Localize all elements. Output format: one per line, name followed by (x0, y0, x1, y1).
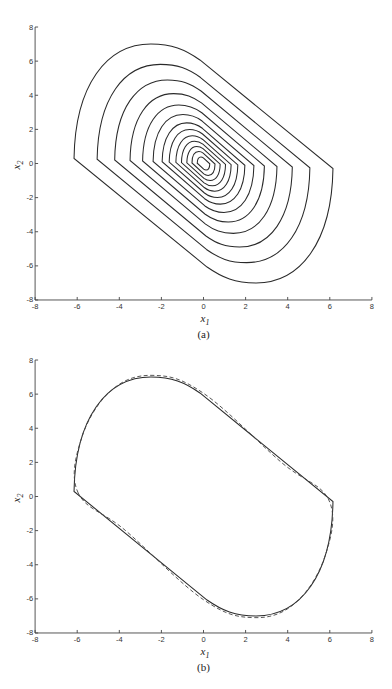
x-tick-label: -4 (116, 302, 123, 311)
panel-caption: (b) (197, 661, 210, 674)
y-tick-label: 2 (29, 125, 33, 134)
x-tick-label: -2 (158, 302, 165, 311)
y-tick-label: -4 (26, 227, 33, 236)
figure: -8-6-4-202468-8-6-4-202468x1x2(a) -8-6-4… (0, 0, 392, 689)
x-tick-label: 2 (244, 302, 248, 311)
y-tick-label: -2 (26, 526, 33, 535)
y-tick-label: -8 (26, 295, 33, 304)
y-tick-label: 0 (29, 159, 33, 168)
y-tick-label: 8 (29, 356, 33, 365)
dashed-curve (74, 375, 333, 617)
x-tick-label: -6 (74, 635, 81, 644)
solid-curve (74, 377, 333, 616)
x-tick-label: 0 (201, 302, 205, 311)
x-axis-label: x1 (200, 312, 210, 327)
x-tick-label: -6 (74, 302, 81, 311)
x-tick-label: 4 (286, 635, 290, 644)
y-tick-label: 4 (29, 424, 33, 433)
x-tick-label: 2 (244, 635, 248, 644)
x-axis-label: x1 (200, 645, 210, 660)
y-tick-label: -2 (26, 193, 33, 202)
x-tick-label: -4 (116, 635, 123, 644)
y-tick-label: -4 (26, 560, 33, 569)
y-tick-label: -6 (26, 594, 33, 603)
trajectory-loop (197, 157, 210, 170)
trajectory-loop (97, 64, 310, 262)
x-tick-label: 4 (286, 302, 290, 311)
y-tick-label: 6 (29, 57, 33, 66)
y-axis-label: x2 (10, 494, 25, 504)
y-tick-label: 0 (29, 492, 33, 501)
trajectory-loop (192, 152, 215, 176)
y-tick-label: 6 (29, 390, 33, 399)
y-tick-label: 2 (29, 458, 33, 467)
y-axis-label: x2 (10, 161, 25, 171)
panel-caption: (a) (197, 328, 210, 341)
y-tick-label: -8 (26, 628, 33, 637)
panel-a-phase-portrait: -8-6-4-202468-8-6-4-202468x1x2(a) (10, 23, 374, 341)
y-tick-label: 8 (29, 23, 33, 32)
x-tick-label: 8 (370, 302, 374, 311)
x-tick-label: 0 (201, 635, 205, 644)
x-tick-label: 6 (328, 302, 332, 311)
x-tick-label: -2 (158, 635, 165, 644)
panel-b-comparison: -8-6-4-202468-8-6-4-202468x1x2(b) (10, 356, 374, 674)
x-tick-label: 6 (328, 635, 332, 644)
y-tick-label: -6 (26, 261, 33, 270)
x-tick-label: 8 (370, 635, 374, 644)
y-tick-label: 4 (29, 91, 33, 100)
